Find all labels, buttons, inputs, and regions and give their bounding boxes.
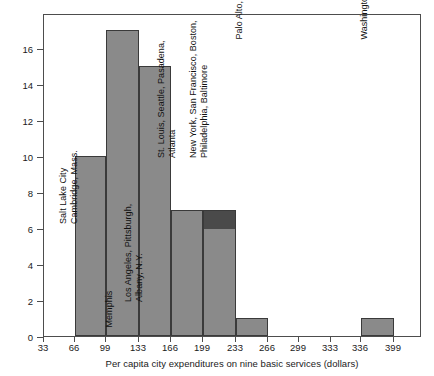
- bar-336-399: [361, 318, 394, 336]
- plot-area: Salt Lake City Cambridge, Mass. Memphis …: [44, 15, 420, 336]
- bar-label-memphis: Memphis: [104, 291, 115, 328]
- y-tick-label-16: 16: [3, 45, 33, 55]
- bar-label-st-louis: St. Louis, Seattle, Pasadena, Atlanta: [156, 40, 177, 158]
- y-tick-label-4: 4: [3, 261, 33, 271]
- bar-label-los-angeles: Los Angeles, Pittsburgh, Albany, N.Y.: [123, 204, 144, 302]
- y-tick-label-10: 10: [3, 153, 33, 163]
- bar-233-266: [236, 318, 268, 336]
- bar-199-233-highlight-segment: [204, 211, 235, 229]
- histogram-figure: Number of cities 0 2 4 6 8 10 12 14 16: [0, 0, 434, 376]
- y-tick-label-2: 2: [3, 297, 33, 307]
- bar-66-99: [75, 156, 106, 336]
- bar-199-233: [203, 210, 236, 336]
- y-tick-label-12: 12: [3, 117, 33, 127]
- bar-label-new-york: New York, San Francisco, Boston, Philade…: [188, 20, 209, 158]
- x-axis-title: Per capita city expenditures on nine bas…: [43, 358, 421, 369]
- x-tick-label-399: 399: [373, 343, 413, 353]
- plot-frame: Salt Lake City Cambridge, Mass. Memphis …: [43, 14, 421, 337]
- y-tick-label-0: 0: [3, 333, 33, 343]
- y-tick-label-6: 6: [3, 225, 33, 235]
- bar-label-washington-dc: Washington, D.C.: [359, 0, 370, 40]
- bar-166-199: [171, 210, 203, 336]
- y-tick-label-14: 14: [3, 81, 33, 91]
- y-tick-label-8: 8: [3, 189, 33, 199]
- bar-label-palo-alto: Palo Alto, Calif.: [234, 0, 245, 40]
- bar-label-salt-lake-city: Salt Lake City Cambridge, Mass.: [58, 150, 79, 224]
